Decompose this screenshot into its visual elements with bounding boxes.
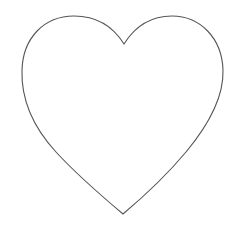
background bbox=[0, 0, 238, 233]
heart-icon bbox=[0, 0, 238, 233]
heart-drawing-canvas bbox=[0, 0, 238, 233]
